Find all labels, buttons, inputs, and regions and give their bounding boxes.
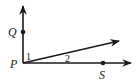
angle-label-2: 2 xyxy=(65,53,70,64)
label-q: Q xyxy=(8,25,17,39)
angle-diagram: Q P S 1 2 xyxy=(0,0,139,83)
label-p: P xyxy=(9,57,18,71)
angle-label-1: 1 xyxy=(26,51,31,62)
point-q xyxy=(21,30,26,35)
ray-middle xyxy=(23,41,119,63)
point-s xyxy=(101,61,106,66)
label-s: S xyxy=(99,68,105,82)
